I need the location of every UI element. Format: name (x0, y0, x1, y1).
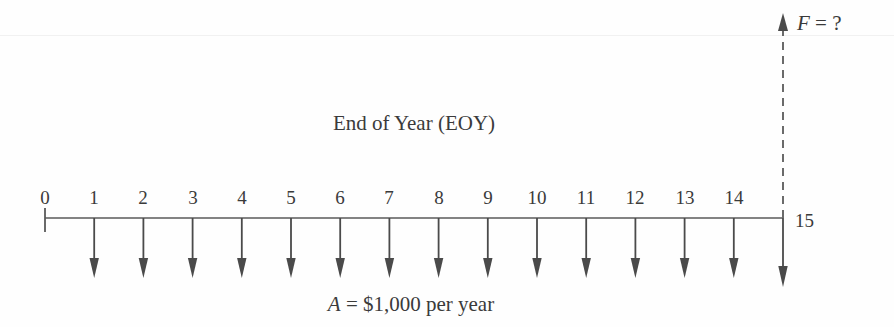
future-worth-value: = ? (810, 11, 842, 35)
eoy-caption: End of Year (EOY) (333, 113, 495, 134)
year-label-5: 5 (286, 188, 296, 207)
year-label-6: 6 (335, 188, 345, 207)
year-label-15: 15 (795, 211, 814, 230)
future-worth-symbol: F (797, 11, 810, 35)
year-label-3: 3 (188, 188, 198, 207)
payment-arrow-year-13 (680, 218, 689, 278)
payment-arrow-year-7 (385, 218, 394, 278)
year-label-8: 8 (434, 188, 444, 207)
payment-arrow-year-15 (778, 218, 787, 287)
payment-arrow-year-12 (631, 218, 640, 278)
payment-arrow-year-8 (434, 218, 443, 278)
annuity-label: A = $1,000 per year (328, 294, 494, 315)
cash-flow-graphic (0, 0, 894, 327)
payment-arrow-year-10 (532, 218, 541, 278)
year-label-1: 1 (89, 188, 99, 207)
payment-arrow-year-14 (729, 218, 738, 278)
future-worth-label: F = ? (797, 13, 842, 34)
payment-arrow-year-11 (582, 218, 591, 278)
year-label-13: 13 (676, 188, 695, 207)
year-label-9: 9 (483, 188, 493, 207)
year-label-0: 0 (40, 188, 50, 207)
year-label-12: 12 (626, 188, 645, 207)
year-label-10: 10 (528, 188, 547, 207)
year-label-14: 14 (725, 188, 744, 207)
payment-arrow-year-4 (237, 218, 246, 278)
year-label-2: 2 (138, 188, 148, 207)
year-label-4: 4 (237, 188, 247, 207)
future-worth-arrow (778, 13, 788, 218)
year-label-7: 7 (384, 188, 394, 207)
payment-arrow-year-6 (336, 218, 345, 278)
payment-arrow-year-2 (139, 218, 148, 278)
payment-arrow-group (90, 218, 788, 287)
payment-arrow-year-3 (188, 218, 197, 278)
annuity-value: = $1,000 per year (341, 292, 495, 316)
payment-arrow-year-9 (483, 218, 492, 278)
annuity-symbol: A (328, 292, 341, 316)
payment-arrow-year-1 (90, 218, 99, 278)
cash-flow-diagram: End of Year (EOY) F = ? A = $1,000 per y… (0, 0, 894, 327)
year-label-11: 11 (577, 188, 595, 207)
payment-arrow-year-5 (286, 218, 295, 278)
